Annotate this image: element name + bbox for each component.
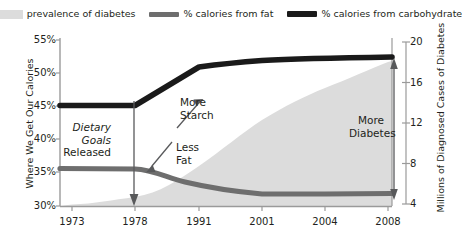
right-tick-8: 8 [410, 159, 416, 169]
x-axis-tick-labels: 1973 1978 1991 2001 2004 2008 [0, 216, 457, 232]
annotation-starch-line2: Starch [180, 109, 214, 122]
right-tick-16: 16 [410, 78, 423, 88]
right-tick-20: 20 [410, 37, 423, 47]
annotation-dietary-line3: Released [63, 146, 111, 159]
left-axis-title: Where We Get Our Calories [24, 39, 35, 209]
annotation-starch-line1: More [180, 96, 214, 109]
left-tick-35: 35% [34, 167, 56, 177]
x-tick-2008: 2008 [375, 216, 400, 227]
annotation-more-diabetes: More Diabetes [349, 114, 393, 139]
x-tick-2001: 2001 [249, 216, 274, 227]
annotation-fat-line1: Less [176, 141, 199, 154]
left-tick-55: 55% [34, 35, 56, 45]
left-tick-40: 40% [34, 134, 56, 144]
x-tick-1973: 1973 [59, 216, 84, 227]
right-tick-12: 12 [410, 118, 423, 128]
left-tick-50: 50% [34, 68, 56, 78]
annotation-diabetes-line2: Diabetes [349, 127, 393, 140]
dietary-goals-marker [130, 101, 139, 206]
annotation-less-fat: Less Fat [176, 141, 199, 166]
right-tick-4: 4 [410, 199, 416, 209]
annotation-dietary-line2: Goals [63, 134, 111, 147]
x-tick-1978: 1978 [122, 216, 147, 227]
left-tick-30: 30% [34, 201, 56, 211]
x-tick-1991: 1991 [186, 216, 211, 227]
annotation-diabetes-line1: More [349, 114, 393, 127]
annotation-dietary-line1: Dietary [63, 121, 111, 134]
right-axis-title: Millions of Diagnosed Cases of Diabetes [435, 43, 446, 213]
annotation-fat-line2: Fat [176, 154, 199, 167]
less-fat-annotation-arrow [146, 142, 172, 173]
right-axis-tick-labels: 20 16 12 8 4 [410, 0, 436, 244]
annotation-dietary-goals-released: Dietary Goals Released [63, 121, 111, 159]
left-tick-45: 45% [34, 101, 56, 111]
x-tick-2004: 2004 [312, 216, 337, 227]
annotation-more-starch: More Starch [180, 96, 214, 121]
